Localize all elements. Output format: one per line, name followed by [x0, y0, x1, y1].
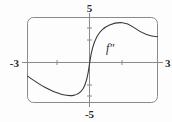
y-min-label: -5: [85, 108, 95, 120]
curve-label-f-double-prime: f″: [106, 41, 115, 55]
x-min-label: -3: [10, 57, 20, 69]
y-max-label: 5: [87, 2, 93, 14]
x-max-label: 3: [165, 57, 171, 69]
graph-svg: 5 -5 -3 3 f″: [0, 0, 172, 122]
graph-figure: 5 -5 -3 3 f″: [0, 0, 172, 122]
